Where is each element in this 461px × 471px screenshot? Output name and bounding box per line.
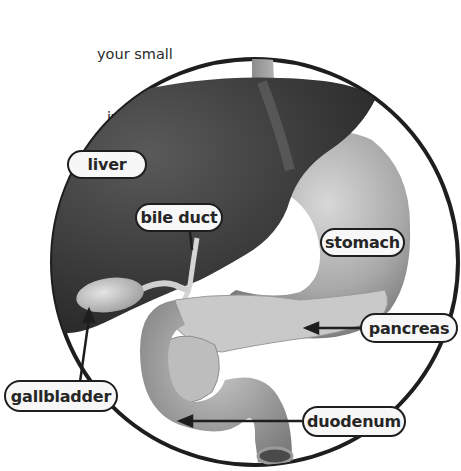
label-bile-duct: bile duct (135, 203, 223, 232)
label-duodenum-text: duodenum (307, 412, 401, 431)
label-liver-text: liver (87, 155, 126, 174)
label-stomach-text: stomach (325, 233, 400, 252)
anatomy-figure: your small ive process. d by your arge t… (0, 0, 461, 471)
label-gallbladder-text: gallbladder (11, 387, 111, 406)
label-gallbladder: gallbladder (4, 380, 118, 412)
label-bile-duct-text: bile duct (140, 208, 217, 227)
label-stomach: stomach (320, 228, 405, 257)
label-pancreas: pancreas (360, 313, 458, 343)
label-duodenum: duodenum (302, 406, 406, 437)
label-pancreas-text: pancreas (369, 319, 450, 338)
label-liver: liver (67, 150, 147, 179)
duodenum-opening (258, 448, 292, 464)
